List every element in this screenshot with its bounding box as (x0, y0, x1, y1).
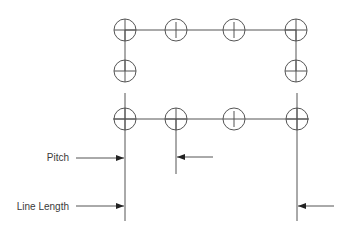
pitch-line-length-diagram: Pitch Line Length (0, 0, 350, 235)
circle-cross-icon (285, 19, 307, 41)
circle-cross-icon (114, 60, 136, 82)
circle-cross-icon (114, 19, 136, 41)
circle-cross-icon (285, 60, 307, 82)
top-frame (125, 30, 296, 71)
circle-cross-icon (114, 108, 136, 130)
pitch-label: Pitch (47, 152, 69, 163)
line-length-label: Line Length (17, 201, 69, 212)
middle-row-circles (114, 60, 307, 82)
circle-cross-icon (286, 108, 308, 130)
circle-cross-icon (165, 108, 187, 130)
